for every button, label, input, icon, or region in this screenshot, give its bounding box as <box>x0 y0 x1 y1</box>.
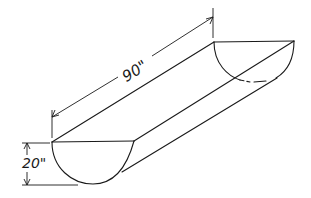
back-arc-hidden <box>240 80 250 82</box>
left-rim-edge <box>52 42 214 142</box>
back-top-edge <box>214 41 294 42</box>
bottom-silhouette-edge <box>122 78 277 172</box>
trough-diagram: 90" 20" <box>0 0 311 198</box>
front-end-face <box>52 141 134 184</box>
back-arc-visible-left <box>214 42 240 80</box>
right-rim-edge <box>134 41 294 141</box>
length-dim-line-left <box>52 77 118 117</box>
trough-long-edges <box>52 41 294 172</box>
height-label: 20" <box>20 156 48 170</box>
front-top-edge <box>52 141 134 142</box>
front-arc <box>52 141 134 184</box>
back-end-face <box>214 41 294 82</box>
length-dim-line-right <box>152 17 213 56</box>
back-arc-hidden-2 <box>254 81 266 82</box>
